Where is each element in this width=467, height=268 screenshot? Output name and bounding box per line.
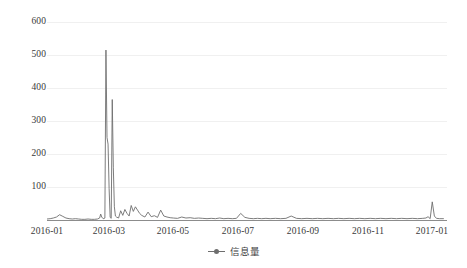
- gridline-100: [47, 187, 447, 188]
- ytick-label-300: 300: [12, 115, 46, 125]
- chart-legend: 信息量: [0, 247, 467, 257]
- ytick-label-500: 500: [12, 49, 46, 59]
- legend-label-xinxiliang: 信息量: [230, 247, 260, 257]
- ytick-label-400: 400: [12, 82, 46, 92]
- ytick-label-200: 200: [12, 148, 46, 158]
- xtick-label-2016-09: 2016-09: [273, 226, 333, 236]
- gridline-600: [47, 22, 447, 23]
- legend-marker-icon: [208, 251, 225, 252]
- xtick-label-2016-03: 2016-03: [79, 226, 139, 236]
- gridline-400: [47, 88, 447, 89]
- gridline-200: [47, 154, 447, 155]
- ytick-label-100: 100: [12, 181, 46, 191]
- xtick-label-2016-05: 2016-05: [143, 226, 203, 236]
- xtick-label-2016-01: 2016-01: [17, 226, 77, 236]
- xtick-label-2017-01: 2017-01: [402, 226, 462, 236]
- xtick-label-2016-11: 2016-11: [338, 226, 398, 236]
- series-line-xinxiliang: [47, 50, 444, 219]
- ytick-label-600: 600: [12, 16, 46, 26]
- xtick-label-2016-07: 2016-07: [208, 226, 268, 236]
- x-axis-line: [47, 220, 447, 221]
- gridline-500: [47, 55, 447, 56]
- chart-container: 600 500 400 300 200 100 2016-01 2016-03 …: [0, 0, 467, 268]
- gridline-300: [47, 121, 447, 122]
